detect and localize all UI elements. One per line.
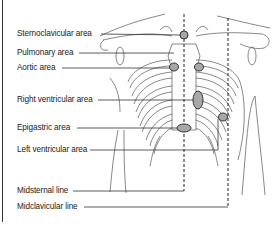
label-midclavicular-line: Midclavicular line	[17, 202, 78, 212]
leader-lines	[62, 34, 228, 207]
pulmonary-area-marker	[170, 63, 179, 71]
right-ventricular-area-marker	[193, 91, 203, 109]
epigastric-area-marker	[177, 124, 191, 132]
anatomy-outline	[100, 14, 270, 195]
label-pulmonary-area: Pulmonary area	[17, 48, 73, 58]
sternoclavicular-area-marker	[180, 31, 188, 39]
aortic-area-marker	[195, 63, 204, 71]
label-midsternal-line: Midsternal line	[17, 186, 68, 196]
label-right-ventricular-area: Right ventricular area	[17, 95, 93, 105]
label-left-ventricular-area: Left ventricular area	[17, 145, 87, 155]
label-aortic-area: Aortic area	[17, 63, 56, 73]
left-ventricular-area-marker	[219, 113, 228, 121]
label-epigastric-area: Epigastric area	[17, 123, 70, 133]
label-sternoclavicular-area: Sternoclavicular area	[17, 29, 92, 39]
